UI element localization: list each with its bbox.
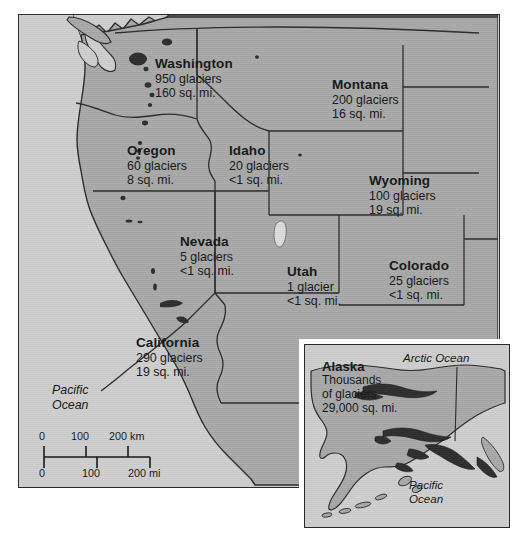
glacier-dot-adams xyxy=(149,93,154,97)
scale-km-label-100: 100 xyxy=(71,430,89,442)
ocean-label-pacific: Pacific Ocean xyxy=(52,383,89,413)
state-glaciers-alaska-line2: of glaciers xyxy=(322,388,397,402)
state-glaciers-colorado: 25 glaciers xyxy=(389,274,449,288)
ocean-label-arctic: Arctic Ocean xyxy=(403,351,469,365)
state-name-utah: Utah xyxy=(287,264,341,280)
state-glaciers-california: 290 glaciers xyxy=(136,351,203,365)
state-label-wyoming: Wyoming 100 glaciers 19 sq. mi. xyxy=(369,173,436,217)
state-glaciers-washington: 950 glaciers xyxy=(155,72,233,86)
scale-km-label-200: 200 km xyxy=(109,430,144,442)
state-area-wyoming: 19 sq. mi. xyxy=(369,203,436,217)
state-area-montana: 16 sq. mi. xyxy=(332,107,399,121)
state-name-washington: Washington xyxy=(155,56,233,72)
state-label-nevada: Nevada 5 glaciers <1 sq. mi. xyxy=(180,234,234,278)
glacier-band-kenai xyxy=(395,463,413,472)
state-area-nevada: <1 sq. mi. xyxy=(180,264,234,278)
state-glaciers-idaho: 20 glaciers xyxy=(229,159,289,173)
state-label-colorado: Colorado 25 glaciers <1 sq. mi. xyxy=(389,258,449,302)
alaska-inset-panel: Alaska Thousands of glaciers 29,000 sq. … xyxy=(299,339,515,533)
ocean-label-pacific-inset: Pacific Ocean xyxy=(409,478,443,506)
ocean-label-pacific-inset-line2: Ocean xyxy=(409,492,443,506)
scale-mi-label-0: 0 xyxy=(39,467,45,479)
scale-km-label-0: 0 xyxy=(39,430,45,442)
glacier-map: Washington 950 glaciers 160 sq. mi. Mont… xyxy=(0,0,524,539)
state-name-idaho: Idaho xyxy=(229,143,289,159)
glacier-dot-ca-coast-d xyxy=(153,284,157,291)
state-label-idaho: Idaho 20 glaciers <1 sq. mi. xyxy=(229,143,289,187)
state-name-colorado: Colorado xyxy=(389,258,449,274)
glacier-dot-wind-river xyxy=(298,153,302,156)
glacier-band-st-elias xyxy=(425,444,475,469)
state-name-california: California xyxy=(136,335,203,351)
state-label-california: California 290 glaciers 19 sq. mi. xyxy=(136,335,203,379)
state-name-nevada: Nevada xyxy=(180,234,234,250)
scale-mi-label-200: 200 mi xyxy=(128,467,160,479)
glacier-dot-ca-coast-b xyxy=(137,221,142,224)
state-area-utah: <1 sq. mi. xyxy=(287,294,341,308)
ocean-label-pacific-line2: Ocean xyxy=(52,398,89,413)
glacier-dot-st-helens xyxy=(148,103,152,107)
ocean-label-pacific-line1: Pacific xyxy=(52,383,89,398)
glacier-dot-ca-coast-a xyxy=(126,220,133,223)
glacier-dot-ca-coast-c xyxy=(151,268,155,274)
state-area-oregon: 8 sq. mi. xyxy=(127,173,187,187)
state-label-oregon: Oregon 60 glaciers 8 sq. mi. xyxy=(127,143,187,187)
glacier-dot-puget-cluster-a xyxy=(143,67,148,71)
state-area-california: 19 sq. mi. xyxy=(136,365,203,379)
state-name-oregon: Oregon xyxy=(127,143,187,159)
state-label-alaska: Alaska Thousands of glaciers 29,000 sq. … xyxy=(322,359,397,416)
scale-mi-label-100: 100 xyxy=(82,467,100,479)
state-area-washington: 160 sq. mi. xyxy=(155,86,233,100)
glacier-dot-mt-baker xyxy=(162,38,172,45)
glacier-dot-mt-shasta xyxy=(120,196,125,200)
state-glaciers-utah: 1 glacier xyxy=(287,280,341,294)
state-area-idaho: <1 sq. mi. xyxy=(229,173,289,187)
state-label-utah: Utah 1 glacier <1 sq. mi. xyxy=(287,264,341,308)
state-name-wyoming: Wyoming xyxy=(369,173,436,189)
state-glaciers-nevada: 5 glaciers xyxy=(180,250,234,264)
state-name-alaska: Alaska xyxy=(322,359,397,374)
ocean-label-arctic-line1: Arctic Ocean xyxy=(403,351,469,365)
alaska-inset-frame: Alaska Thousands of glaciers 29,000 sq. … xyxy=(304,344,510,528)
state-area-alaska: 29,000 sq. mi. xyxy=(322,402,397,416)
state-label-montana: Montana 200 glaciers 16 sq. mi. xyxy=(332,77,399,121)
state-label-washington: Washington 950 glaciers 160 sq. mi. xyxy=(155,56,233,100)
ocean-label-pacific-inset-line1: Pacific xyxy=(409,478,443,492)
state-name-montana: Montana xyxy=(332,77,399,93)
state-glaciers-alaska-line1: Thousands xyxy=(322,374,397,388)
state-area-colorado: <1 sq. mi. xyxy=(389,288,449,302)
scale-bar: 0 100 200 km 0 100 200 mi xyxy=(39,430,167,482)
glacier-dot-glacier-np xyxy=(255,55,259,58)
state-glaciers-wyoming: 100 glaciers xyxy=(369,189,436,203)
glacier-dot-rainier xyxy=(145,82,152,88)
state-glaciers-oregon: 60 glaciers xyxy=(127,159,187,173)
state-glaciers-montana: 200 glaciers xyxy=(332,93,399,107)
glacier-dot-glacier-peak xyxy=(129,53,147,66)
glacier-dot-mt-hood xyxy=(142,121,148,126)
